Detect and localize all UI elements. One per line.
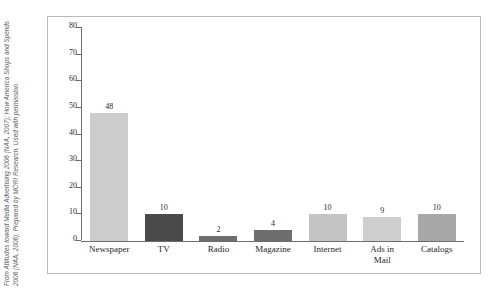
bar-group: 48 — [82, 28, 137, 241]
x-axis-category-label: Magazine — [246, 244, 301, 265]
bar[interactable] — [309, 214, 347, 241]
y-axis-tick-label: 60 — [69, 74, 77, 83]
bar-value-label: 4 — [271, 220, 275, 228]
source-credit: From Attitudes toward Media Advertising … — [0, 0, 40, 290]
y-axis-tick-label: 10 — [69, 207, 77, 216]
y-axis-tick-label: 50 — [69, 101, 77, 110]
y-axis-tick-label: 70 — [69, 48, 77, 57]
x-axis-category-label: Ads inMail — [355, 244, 410, 265]
bar-group: 10 — [409, 28, 464, 241]
bar-series: 48102410910 — [82, 28, 464, 241]
bar-value-label: 2 — [216, 226, 220, 234]
y-axis-tick-label: 40 — [69, 128, 77, 137]
y-axis-tick-label: 0 — [73, 234, 77, 243]
x-axis-category-label: Newspaper — [82, 244, 137, 265]
y-axis-tick-label: 30 — [69, 154, 77, 163]
source-credit-text: From Attitudes toward Media Advertising … — [0, 8, 20, 290]
x-axis-categories: NewspaperTVRadioMagazineInternetAds inMa… — [82, 244, 464, 265]
bar-value-label: 9 — [380, 207, 384, 215]
bar-value-label: 10 — [160, 204, 168, 212]
y-axis-tick-label: 20 — [69, 181, 77, 190]
bar[interactable] — [199, 236, 237, 241]
bar-value-label: 10 — [433, 204, 441, 212]
bar[interactable] — [254, 230, 292, 241]
x-axis-category-label: Radio — [191, 244, 246, 265]
chart-panel: 01020304050607080 48102410910 NewspaperT… — [47, 16, 481, 274]
x-axis-line — [81, 241, 464, 242]
bar[interactable] — [363, 217, 401, 241]
x-axis-category-label: Catalogs — [409, 244, 464, 265]
x-axis-category-label: TV — [137, 244, 192, 265]
bar-group: 4 — [246, 28, 301, 241]
bar-group: 10 — [300, 28, 355, 241]
bar[interactable] — [418, 214, 456, 241]
bar-value-label: 48 — [105, 103, 113, 111]
bar-group: 9 — [355, 28, 410, 241]
x-axis-category-label: Internet — [300, 244, 355, 265]
bar[interactable] — [90, 113, 128, 241]
bar-value-label: 10 — [324, 204, 332, 212]
y-axis-tick-label: 80 — [69, 21, 77, 30]
bar-group: 10 — [137, 28, 192, 241]
plot-area: 01020304050607080 48102410910 — [81, 27, 464, 242]
figure-container: From Attitudes toward Media Advertising … — [0, 0, 500, 290]
bar[interactable] — [145, 214, 183, 241]
bar-group: 2 — [191, 28, 246, 241]
